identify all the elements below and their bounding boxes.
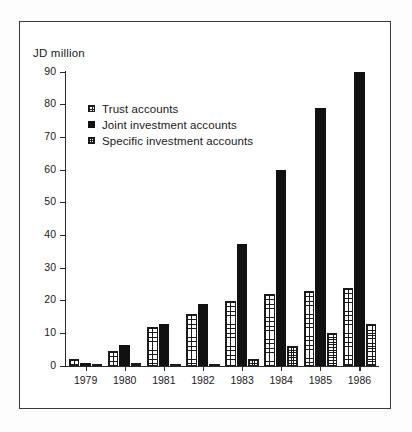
bar-trust-accounts: [264, 294, 275, 366]
bar-specific-investment-accounts: [170, 364, 181, 366]
bar-joint-investment-accounts: [276, 170, 287, 366]
x-axis-line: [65, 366, 379, 367]
y-tick-label: 0: [50, 359, 56, 371]
bar-joint-investment-accounts: [354, 72, 365, 366]
bar-trust-accounts: [186, 314, 197, 366]
bar-specific-investment-accounts: [92, 364, 103, 366]
y-tick-label: 60: [44, 163, 56, 175]
x-tick-mark: [164, 366, 165, 371]
bar-joint-investment-accounts: [80, 363, 91, 366]
bar-joint-investment-accounts: [237, 244, 248, 367]
y-tick-label: 20: [44, 293, 56, 305]
bar-specific-investment-accounts: [327, 333, 338, 366]
x-tick-label: 1985: [309, 374, 332, 386]
x-tick-mark: [86, 366, 87, 371]
x-tick-label: 1980: [113, 374, 136, 386]
bar-trust-accounts: [108, 351, 119, 366]
legend-label: Trust accounts: [102, 103, 178, 115]
bar-specific-investment-accounts: [287, 346, 298, 366]
x-tick-label: 1983: [230, 374, 253, 386]
bar-specific-investment-accounts: [248, 359, 259, 366]
bar-specific-investment-accounts: [209, 364, 220, 366]
x-tick-label: 1982: [191, 374, 214, 386]
bar-specific-investment-accounts: [366, 324, 377, 366]
x-tick-mark: [242, 366, 243, 371]
legend-swatch-dense-grid-icon: [88, 137, 95, 144]
bar-specific-investment-accounts: [131, 363, 142, 366]
y-tick-label: 90: [44, 65, 56, 77]
bar-trust-accounts: [343, 288, 354, 366]
x-tick-label: 1979: [74, 374, 97, 386]
x-tick-label: 1986: [348, 374, 371, 386]
y-axis-title: JD million: [33, 47, 85, 59]
y-tick-label: 70: [44, 130, 56, 142]
legend-label: Specific investment accounts: [102, 135, 253, 147]
bar-trust-accounts: [225, 301, 236, 366]
x-tick-mark: [320, 366, 321, 371]
legend-swatch-light-grid-icon: [88, 105, 95, 112]
bar-joint-investment-accounts: [198, 304, 209, 366]
x-tick-mark: [281, 366, 282, 371]
bar-joint-investment-accounts: [315, 108, 326, 366]
bar-joint-investment-accounts: [119, 345, 130, 366]
y-tick-label: 80: [44, 97, 56, 109]
y-tick-label: 50: [44, 195, 56, 207]
y-tick-label: 30: [44, 261, 56, 273]
legend-label: Joint investment accounts: [102, 119, 237, 131]
legend-item-trust-accounts: Trust accounts: [88, 101, 253, 116]
legend-swatch-solid-black-icon: [88, 121, 95, 128]
bar-trust-accounts: [69, 359, 80, 366]
y-tick-label: 10: [44, 326, 56, 338]
y-tick-label: 40: [44, 228, 56, 240]
chart-legend: Trust accounts Joint investment accounts…: [88, 101, 253, 149]
legend-item-specific-investment-accounts: Specific investment accounts: [88, 133, 253, 148]
figure-canvas: JD million 0102030405060708090 197919801…: [0, 0, 412, 432]
x-tick-mark: [359, 366, 360, 371]
x-tick-label: 1981: [152, 374, 175, 386]
bar-trust-accounts: [147, 327, 158, 366]
x-tick-label: 1984: [270, 374, 293, 386]
bar-joint-investment-accounts: [159, 324, 170, 366]
bar-trust-accounts: [304, 291, 315, 366]
x-tick-mark: [125, 366, 126, 371]
x-tick-mark: [203, 366, 204, 371]
legend-item-joint-investment-accounts: Joint investment accounts: [88, 117, 253, 132]
